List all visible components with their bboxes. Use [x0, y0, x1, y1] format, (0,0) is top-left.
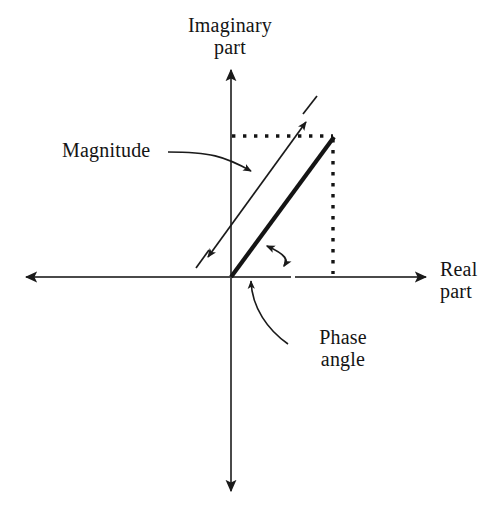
- magnitude-tick-upper: [303, 96, 317, 114]
- axis-group: [26, 70, 426, 491]
- imaginary-axis-label: Imaginary part: [160, 14, 300, 59]
- diagram-canvas: Imaginary part Real part Magnitude Phase…: [0, 0, 503, 510]
- magnitude-double-arrow: [208, 122, 306, 257]
- phasor-diagram-figure: [0, 0, 503, 510]
- magnitude-tick-lower: [196, 250, 209, 268]
- phase-angle-leader-line: [251, 281, 288, 344]
- real-axis-label: Real part: [440, 258, 502, 303]
- phase-angle-arc: [267, 246, 286, 266]
- magnitude-label: Magnitude: [62, 139, 182, 161]
- phase-angle-label: Phase angle: [293, 326, 393, 371]
